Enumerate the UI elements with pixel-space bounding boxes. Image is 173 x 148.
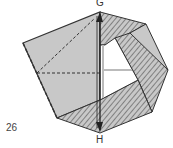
label-g: G: [96, 0, 104, 8]
label-h: H: [96, 135, 103, 145]
step-number: 26: [6, 123, 17, 133]
left-panel: [23, 12, 100, 118]
origami-fold-diagram: [0, 0, 173, 148]
